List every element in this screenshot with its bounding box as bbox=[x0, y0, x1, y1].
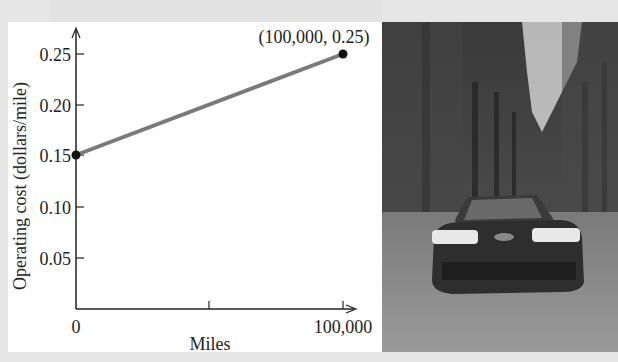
top-band bbox=[50, 0, 382, 22]
x-axis-label: Miles bbox=[189, 334, 230, 352]
y-tick-label: 0.05 bbox=[40, 249, 72, 269]
y-tick-label: 0.15 bbox=[40, 146, 72, 166]
data-point bbox=[72, 151, 81, 160]
x-tick-label: 100,000 bbox=[314, 317, 373, 337]
line-chart: 0.25 0.20 0.15 0.10 0.05 0 100,000 Miles… bbox=[8, 22, 382, 352]
x-ticks bbox=[209, 301, 343, 309]
point-annotation: (100,000, 0.25) bbox=[259, 27, 370, 48]
y-axis-label: Operating cost (dollars/mile) bbox=[10, 82, 31, 290]
y-tick-label: 0.10 bbox=[40, 198, 72, 218]
y-tick-label: 0.20 bbox=[40, 96, 72, 116]
y-tick-label: 0.25 bbox=[40, 45, 72, 65]
chart-panel: 0.25 0.20 0.15 0.10 0.05 0 100,000 Miles… bbox=[8, 22, 382, 352]
data-point bbox=[339, 50, 348, 59]
x-tick-label: 0 bbox=[72, 317, 81, 337]
car-photo bbox=[382, 22, 618, 352]
data-line bbox=[76, 54, 343, 155]
